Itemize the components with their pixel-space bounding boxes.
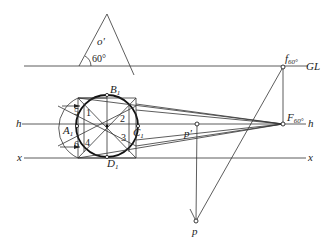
perspective-diagram: 60° o' GL h h x x bbox=[0, 0, 330, 246]
horizon-label-right: h bbox=[308, 117, 314, 129]
label-p: p bbox=[191, 225, 198, 237]
num-2: 2 bbox=[120, 113, 125, 124]
point-B1 bbox=[105, 93, 108, 96]
point-f60 bbox=[281, 65, 285, 69]
label-p-prime: p' bbox=[183, 127, 193, 139]
point-A1 bbox=[75, 124, 78, 127]
label-B1: B1 bbox=[110, 83, 120, 97]
x-axis-label-right: x bbox=[307, 151, 313, 163]
label-C1: C1 bbox=[133, 126, 144, 140]
ground-line-label: GL bbox=[306, 60, 320, 72]
label-f60: f60° bbox=[285, 52, 298, 66]
angle-label: 60° bbox=[92, 53, 106, 64]
point-F60 bbox=[281, 122, 285, 126]
num-4: 4 bbox=[85, 137, 90, 148]
label-D1: D1 bbox=[106, 157, 118, 171]
num-5: 5 bbox=[74, 106, 79, 117]
point-p-prime bbox=[195, 122, 199, 126]
label-F60: F60° bbox=[286, 111, 304, 125]
measuring-line bbox=[196, 67, 283, 221]
point-p bbox=[194, 219, 198, 223]
label-A1: A1 bbox=[62, 124, 73, 138]
x-axis-label-left: x bbox=[16, 151, 22, 163]
horizon-label-left: h bbox=[16, 117, 22, 129]
num-1: 1 bbox=[86, 107, 91, 118]
vanishing-lines bbox=[78, 98, 283, 158]
num-3: 3 bbox=[121, 132, 126, 143]
num-6: 6 bbox=[74, 139, 79, 150]
vertex-label: o' bbox=[97, 35, 106, 47]
